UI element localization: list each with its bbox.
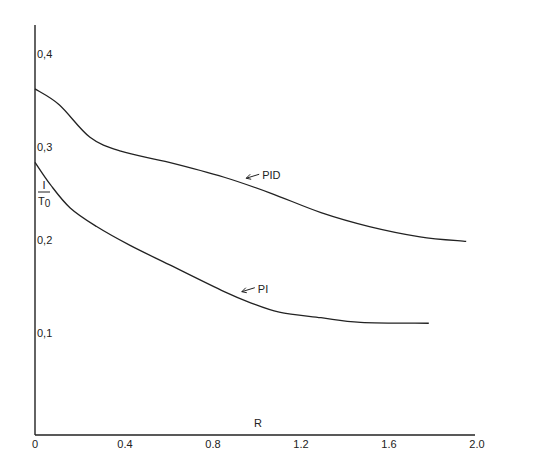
y-tick-label: 0,2 — [37, 234, 52, 246]
y-tick-label: 0,1 — [37, 327, 52, 339]
x-tick-label: 0.4 — [117, 438, 132, 450]
series-label-pid: PID — [262, 169, 280, 181]
axes — [35, 25, 475, 435]
series-line-pid — [35, 89, 466, 242]
x-tick-label: 0.8 — [205, 438, 220, 450]
line-chart: 00.40.81.21.62.0 0,10,20,30,4 R I T0 PID… — [0, 0, 533, 471]
x-tick-label: 0 — [32, 438, 38, 450]
series-labels: PIDPI — [242, 169, 281, 294]
series-label-pi: PI — [258, 283, 268, 295]
x-tick-label: 2.0 — [469, 438, 484, 450]
series-lines — [35, 89, 466, 323]
x-axis-label: R — [254, 417, 262, 429]
y-label-numerator: I — [42, 179, 45, 191]
series-line-pi — [35, 162, 429, 323]
arrow-icon — [242, 288, 255, 293]
x-tick-label: 1.6 — [381, 438, 396, 450]
arrow-icon — [246, 174, 259, 179]
y-tick-label: 0,4 — [37, 48, 52, 60]
y-label-denominator: T0 — [38, 195, 51, 209]
y-tick-label: 0,3 — [37, 141, 52, 153]
x-tick-labels: 00.40.81.21.62.0 — [32, 438, 485, 450]
x-tick-label: 1.2 — [293, 438, 308, 450]
